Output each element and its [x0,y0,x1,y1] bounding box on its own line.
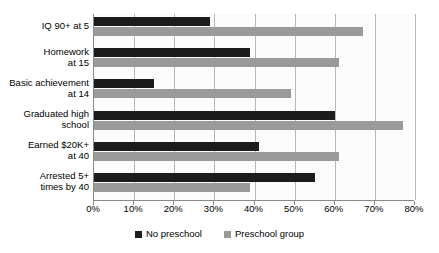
y-axis-label-line: Earned $20K+ [0,139,89,150]
y-axis-label-line: at 14 [0,88,89,99]
bar-no-preschool [94,48,250,57]
x-axis-tick-label: 50% [274,203,314,214]
y-axis-label-line: Arrested 5+ [0,170,89,181]
bar-group [94,108,414,139]
y-axis-label-line: Basic achievement [0,77,89,88]
y-axis-label: Graduated highschool [0,108,89,130]
x-axis-tick-label: 30% [193,203,233,214]
y-axis-label: Arrested 5+times by 40 [0,170,89,192]
x-axis-tick-label: 60% [314,203,354,214]
y-axis-label-line: Homework [0,46,89,57]
bar-preschool-group [94,121,403,130]
bar-no-preschool [94,142,259,151]
x-axis-tick-label: 0% [73,203,113,214]
bar-no-preschool [94,111,335,120]
legend-label: Preschool group [235,229,304,239]
y-axis-label: Earned $20K+at 40 [0,139,89,161]
y-axis-label: Homeworkat 15 [0,46,89,68]
y-axis-label-line: school [0,119,89,130]
bar-group [94,14,414,45]
bar-no-preschool [94,79,154,88]
legend-swatch-icon [224,231,231,238]
y-axis-label: Basic achievementat 14 [0,77,89,99]
bar-no-preschool [94,17,210,26]
x-axis-tick-label: 40% [234,203,274,214]
y-axis-label-line: at 40 [0,150,89,161]
legend-item: Preschool group [224,229,304,239]
y-axis-label-line: IQ 90+ at 5 [0,20,89,31]
y-axis-label-line: times by 40 [0,181,89,192]
bar-group [94,45,414,76]
y-axis-label-line: at 15 [0,57,89,68]
x-axis-tick-label: 80% [394,203,434,214]
legend-item: No preschool [135,229,202,239]
bar-preschool-group [94,89,291,98]
bar-group [94,170,414,201]
legend-swatch-icon [135,231,142,238]
bar-group [94,76,414,107]
bar-no-preschool [94,173,315,182]
plot-area [93,14,414,201]
bar-preschool-group [94,27,363,36]
y-axis-label-line: Graduated high [0,108,89,119]
x-axis-tick-label: 70% [354,203,394,214]
legend-label: No preschool [146,229,202,239]
bar-chart: IQ 90+ at 5Homeworkat 15Basic achievemen… [0,0,439,253]
y-axis-label: IQ 90+ at 5 [0,20,89,31]
bar-preschool-group [94,183,250,192]
bar-preschool-group [94,152,339,161]
bar-preschool-group [94,58,339,67]
x-axis-tick-label: 10% [113,203,153,214]
bar-group [94,139,414,170]
x-axis-tick-label: 20% [153,203,193,214]
chart-legend: No preschoolPreschool group [0,229,439,239]
gridline [415,14,416,200]
